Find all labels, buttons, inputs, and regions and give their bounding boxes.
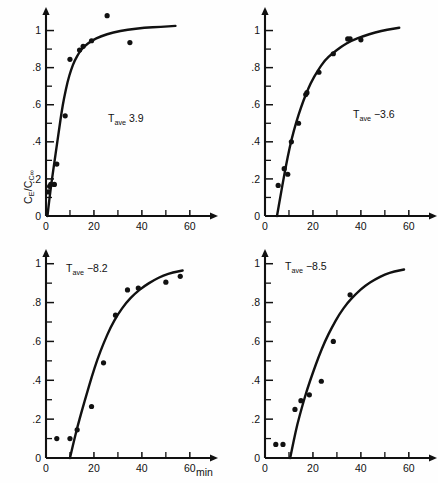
y-axis-label-text: CE/CC∞: [22, 170, 36, 204]
data-point: [296, 121, 301, 126]
y-tick-label: .4: [251, 135, 260, 147]
plot-top-right: 02040600.2.4.6.81Tave −3.6: [241, 0, 438, 242]
data-point: [81, 44, 86, 49]
y-tick-label: .6: [251, 335, 260, 347]
x-tick-label: 0: [43, 462, 49, 474]
x-tick-label: 20: [88, 462, 100, 474]
data-point: [289, 139, 294, 144]
x-axis: [265, 212, 437, 219]
data-point: [273, 442, 278, 447]
panel-bottom-left: 02040600.2.4.6.81Tave −8.2: [22, 242, 219, 483]
plot-bottom-left: 02040600.2.4.6.81Tave −8.2: [22, 242, 219, 483]
data-point: [307, 392, 312, 397]
y-tick-label: .8: [251, 296, 260, 308]
plot-top-left: 02040600.2.4.6.81Tave 3.9: [22, 0, 219, 242]
x-tick-label: 40: [355, 220, 367, 232]
panel-annotation: Tave 3.9: [108, 112, 144, 127]
data-point: [304, 90, 309, 95]
data-point: [67, 436, 72, 441]
data-point: [127, 40, 132, 45]
data-point: [125, 287, 130, 292]
y-tick-label: .6: [251, 98, 260, 110]
y-tick-label: .6: [32, 98, 41, 110]
panel-bottom-right: 02040600.2.4.6.81Tave −8.5: [241, 242, 438, 483]
x-tick-label: 0: [43, 220, 49, 232]
y-tick-label: 0: [254, 210, 260, 222]
x-tick-label: 20: [307, 462, 319, 474]
data-point: [319, 379, 324, 384]
x-tick-label: 40: [136, 220, 148, 232]
data-point: [67, 57, 72, 62]
panel-annotation: Tave −3.6: [353, 108, 395, 123]
y-axis-label: CE/CC∞: [18, 152, 40, 222]
data-point: [331, 339, 336, 344]
y-tick-label: .6: [32, 335, 41, 347]
y-tick-label: .2: [251, 173, 260, 185]
panel-annotation: Tave −8.5: [285, 260, 327, 275]
fitted-curve: [70, 271, 183, 458]
panel-top-left: 02040600.2.4.6.81Tave 3.9: [22, 0, 219, 242]
data-point: [63, 113, 68, 118]
y-tick-label: 0: [35, 452, 41, 464]
data-point: [163, 280, 168, 285]
data-point: [105, 13, 110, 18]
data-point: [54, 161, 59, 166]
figure-four-panel-breakthrough-curves: 02040600.2.4.6.81Tave 3.9 02040600.2.4.6…: [0, 0, 438, 483]
x-tick-label: 60: [403, 462, 415, 474]
x-tick-label: 60: [403, 220, 415, 232]
data-point: [46, 189, 51, 194]
data-point: [178, 274, 183, 279]
y-axis: [261, 249, 268, 458]
y-tick-label: .8: [32, 61, 41, 73]
data-point: [101, 360, 106, 365]
y-axis: [42, 249, 49, 458]
x-tick-label: 0: [262, 220, 268, 232]
data-point: [136, 285, 141, 290]
data-point: [113, 313, 118, 318]
y-tick-label: 1: [35, 257, 41, 269]
y-tick-label: .2: [251, 413, 260, 425]
data-point: [276, 183, 281, 188]
y-tick-label: 1: [35, 24, 41, 36]
data-point: [89, 404, 94, 409]
data-point: [316, 70, 321, 75]
panel-top-right: 02040600.2.4.6.81Tave −3.6: [241, 0, 438, 242]
data-point: [292, 407, 297, 412]
y-tick-label: .4: [251, 374, 260, 386]
data-point-group: [54, 274, 183, 441]
y-axis: [261, 7, 268, 216]
y-tick-label: .4: [32, 374, 41, 386]
x-axis: [46, 454, 218, 461]
data-point: [348, 36, 353, 41]
x-tick-label: 20: [307, 220, 319, 232]
x-tick-label: 60: [184, 462, 196, 474]
y-tick-label: .4: [32, 135, 41, 147]
y-tick-label: 1: [254, 24, 260, 36]
plot-bottom-right: 02040600.2.4.6.81Tave −8.5: [241, 242, 438, 483]
data-point: [348, 292, 353, 297]
data-point: [282, 166, 287, 171]
fitted-curve: [277, 28, 399, 216]
x-tick-label: 40: [355, 462, 367, 474]
data-point: [75, 427, 80, 432]
x-axis: [46, 212, 218, 219]
fitted-curve: [290, 270, 404, 458]
data-point: [280, 442, 285, 447]
data-point: [52, 182, 57, 187]
y-tick-label: .2: [32, 413, 41, 425]
data-point: [285, 172, 290, 177]
data-point: [358, 37, 363, 42]
data-point-group: [276, 36, 364, 188]
data-point: [54, 436, 59, 441]
y-tick-label: .8: [32, 296, 41, 308]
data-point: [298, 398, 303, 403]
y-tick-label: 1: [254, 257, 260, 269]
x-tick-label: 20: [88, 220, 100, 232]
x-axis-label: min: [196, 466, 213, 478]
panel-annotation: Tave −8.2: [66, 262, 108, 277]
x-tick-label: 60: [184, 220, 196, 232]
data-point: [331, 51, 336, 56]
y-tick-label: .8: [251, 61, 260, 73]
x-tick-label: 0: [262, 462, 268, 474]
data-point-group: [46, 13, 133, 194]
